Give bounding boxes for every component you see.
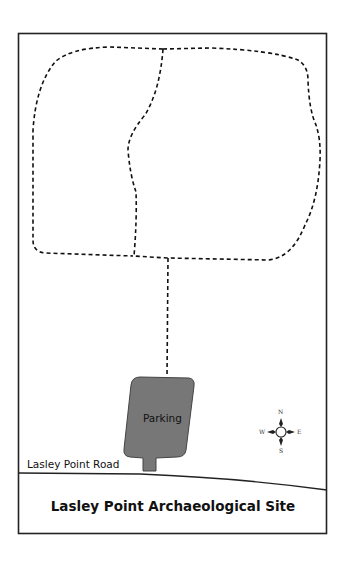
trail-divider — [128, 49, 163, 256]
parking-lot[interactable] — [124, 377, 194, 471]
compass-south-label: S — [279, 447, 283, 454]
trail-to-parking — [167, 258, 168, 377]
road-label: Lasley Point Road — [27, 458, 119, 470]
compass-rose-icon — [267, 418, 295, 446]
trail-east-loop — [133, 48, 320, 260]
road-line — [18, 473, 327, 490]
site-title: Lasley Point Archaeological Site — [18, 498, 328, 514]
compass-north-label: N — [278, 408, 283, 415]
trail-network — [33, 47, 320, 377]
parking-label: Parking — [143, 412, 182, 424]
compass-west-label: W — [259, 428, 265, 435]
compass-east-label: E — [297, 428, 301, 435]
trail-west-loop — [33, 47, 163, 256]
site-map — [0, 0, 347, 562]
